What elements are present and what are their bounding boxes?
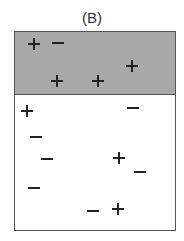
plus-sign-icon <box>20 104 34 118</box>
plus-sign-icon <box>27 37 41 51</box>
minus-sign-icon <box>133 165 147 179</box>
minus-sign-icon <box>27 181 41 195</box>
plus-sign-icon <box>125 59 139 73</box>
minus-sign-icon <box>51 36 65 50</box>
plus-sign-icon <box>112 151 126 165</box>
minus-sign-icon <box>86 204 100 218</box>
plus-sign-icon <box>50 74 64 88</box>
figure-title: (B) <box>0 9 184 26</box>
minus-sign-icon <box>126 101 140 115</box>
plus-sign-icon <box>111 202 125 216</box>
minus-sign-icon <box>40 152 54 166</box>
minus-sign-icon <box>29 130 43 144</box>
plus-sign-icon <box>91 74 105 88</box>
